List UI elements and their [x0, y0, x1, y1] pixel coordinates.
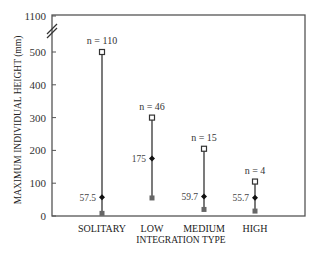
min-marker	[202, 207, 207, 212]
x-category-label: SOLITARY	[78, 223, 126, 234]
mean-marker	[201, 193, 207, 199]
mean-value-label: 57.5	[79, 193, 96, 203]
min-marker	[100, 211, 105, 216]
y-tick-label: 500	[30, 46, 47, 58]
category-range-medium: n = 1559.7MEDIUM	[181, 132, 225, 234]
max-marker	[150, 115, 155, 120]
sample-size-label: n = 15	[191, 132, 217, 143]
x-category-label: LOW	[141, 223, 164, 234]
mean-marker	[252, 195, 258, 201]
range-chart: 01002003004005001100 n = 11057.5SOLITARY…	[0, 0, 317, 259]
mean-marker	[149, 156, 155, 162]
mean-value-label: 175	[132, 154, 147, 164]
y-tick-label: 300	[30, 112, 47, 124]
y-tick-label: 100	[30, 177, 47, 189]
mean-value-label: 59.7	[181, 192, 198, 202]
min-marker	[150, 195, 155, 200]
x-axis-title: INTEGRATION TYPE	[136, 235, 225, 245]
max-marker	[253, 179, 258, 184]
data-series: n = 11057.5SOLITARYn = 46175LOWn = 1559.…	[78, 35, 268, 234]
mean-value-label: 55.7	[232, 193, 249, 203]
category-range-solitary: n = 11057.5SOLITARY	[78, 35, 126, 234]
y-tick-label: 200	[30, 144, 47, 156]
y-tick-label: 0	[41, 210, 47, 222]
x-category-label: MEDIUM	[183, 223, 225, 234]
x-category-label: HIGH	[243, 223, 268, 234]
y-axis: 01002003004005001100	[24, 10, 56, 222]
min-marker	[253, 209, 258, 214]
category-range-low: n = 46175LOW	[132, 101, 165, 234]
mean-marker	[99, 194, 105, 200]
sample-size-label: n = 4	[245, 165, 266, 176]
max-marker	[202, 146, 207, 151]
y-tick-label: 1100	[24, 10, 46, 22]
y-axis-title: MAXIMUM INDIVIDUAL HEIGHT (mm)	[13, 36, 24, 205]
sample-size-label: n = 46	[139, 101, 165, 112]
max-marker	[100, 50, 105, 55]
sample-size-label: n = 110	[87, 35, 117, 46]
y-tick-label: 400	[30, 79, 47, 91]
category-range-high: n = 455.7HIGH	[232, 165, 267, 234]
